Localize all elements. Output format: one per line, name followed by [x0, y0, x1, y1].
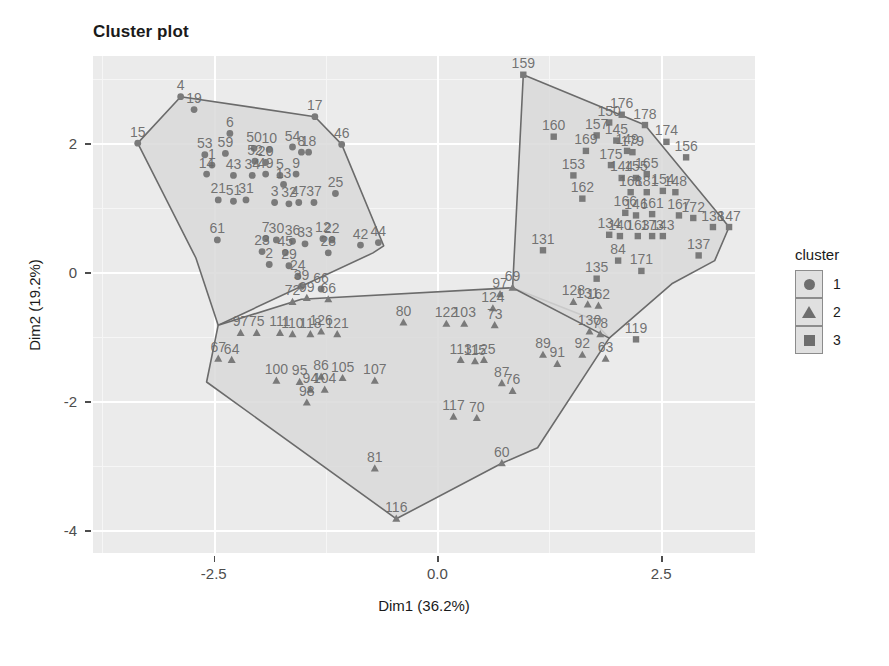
circle-icon — [804, 279, 815, 290]
point-label: 80 — [396, 303, 412, 319]
point-label: 178 — [633, 106, 657, 122]
data-point — [249, 172, 256, 179]
point-label: 43 — [226, 156, 242, 172]
point-label: 81 — [367, 449, 383, 465]
legend-item-1[interactable]: 1 — [795, 270, 887, 298]
data-point — [214, 237, 221, 244]
data-point — [271, 199, 278, 206]
data-point — [203, 171, 210, 178]
data-point — [642, 122, 648, 128]
point-label: 44 — [371, 223, 387, 239]
data-point — [332, 190, 339, 197]
point-label: 174 — [655, 122, 679, 138]
point-label: 165 — [635, 155, 659, 171]
legend: cluster 123 — [795, 246, 887, 354]
data-point — [295, 199, 302, 206]
point-label: 159 — [512, 56, 536, 71]
point-label: 124 — [481, 289, 505, 305]
point-label: 104 — [313, 370, 337, 386]
y-axis-label: Dim2 (19.2%) — [26, 259, 43, 351]
point-label: 169 — [574, 131, 598, 147]
y-tick-mark — [85, 143, 91, 145]
point-label: 161 — [640, 195, 664, 211]
point-label: 121 — [326, 315, 350, 331]
point-label: 15 — [130, 124, 146, 140]
y-tick-mark — [85, 530, 91, 532]
point-label: 20 — [258, 143, 274, 159]
y-tick-label: 2 — [69, 135, 77, 152]
data-point — [579, 195, 585, 201]
data-point — [357, 242, 364, 249]
point-label: 9 — [292, 155, 300, 171]
data-point — [683, 154, 689, 160]
x-tick-mark — [661, 556, 663, 562]
point-label: 156 — [674, 138, 698, 154]
square-icon — [804, 335, 815, 346]
point-label: 13 — [276, 165, 292, 181]
point-label: 92 — [575, 335, 591, 351]
point-label: 60 — [494, 444, 510, 460]
legend-item-2[interactable]: 2 — [795, 298, 887, 326]
point-label: 100 — [265, 361, 289, 377]
point-label: 179 — [621, 133, 645, 149]
legend-items: 123 — [795, 270, 887, 354]
point-label: 131 — [531, 231, 555, 247]
point-label: 78 — [592, 315, 608, 331]
data-point — [593, 275, 599, 281]
point-label: 18 — [301, 133, 317, 149]
point-label: 76 — [505, 371, 521, 387]
data-point — [617, 233, 623, 239]
y-tick-label: -2 — [64, 393, 77, 410]
data-point — [551, 133, 557, 139]
y-tick-label: 0 — [69, 264, 77, 281]
legend-item-3[interactable]: 3 — [795, 326, 887, 354]
point-label: 99 — [299, 279, 315, 295]
point-label: 28 — [320, 233, 336, 249]
data-point — [633, 336, 639, 342]
data-point — [695, 252, 701, 258]
data-point — [663, 139, 669, 145]
data-point — [615, 257, 621, 263]
point-label: 6 — [226, 114, 234, 130]
data-point — [293, 171, 300, 178]
point-label: 84 — [610, 241, 626, 257]
data-point — [280, 181, 287, 188]
point-label: 25 — [328, 174, 344, 190]
point-label: 171 — [630, 251, 654, 267]
data-point — [177, 93, 184, 100]
cluster-plot-figure: Cluster plot 154191764653595054108181521… — [0, 0, 889, 666]
point-label: 75 — [249, 313, 265, 329]
page-title: Cluster plot — [93, 22, 189, 42]
data-point — [243, 197, 250, 204]
point-label: 103 — [453, 304, 477, 320]
point-label: 66 — [320, 280, 336, 296]
data-point — [375, 239, 382, 246]
point-label: 4 — [177, 77, 185, 93]
point-label: 61 — [210, 220, 226, 236]
data-point — [230, 198, 237, 205]
data-point — [325, 249, 332, 256]
point-label: 115 — [464, 342, 487, 358]
data-point — [602, 355, 610, 362]
data-point — [289, 144, 296, 151]
point-label: 19 — [186, 90, 202, 106]
data-point — [520, 72, 526, 78]
point-label: 73 — [487, 306, 503, 322]
point-label: 21 — [210, 180, 226, 196]
y-tick-mark — [85, 401, 91, 403]
point-label: 64 — [224, 341, 240, 357]
legend-key-3 — [795, 326, 823, 354]
x-tick-label: 0.0 — [427, 565, 448, 582]
data-point — [215, 197, 222, 204]
point-label: 162 — [571, 179, 595, 195]
plot-marks: 1541917646535950541081815214433449592021… — [93, 56, 755, 553]
data-point — [262, 159, 269, 166]
point-label: 31 — [238, 180, 254, 196]
x-tick-label: -2.5 — [201, 565, 227, 582]
point-label: 162 — [587, 286, 611, 302]
point-label: 153 — [562, 156, 586, 172]
point-label: 97 — [233, 313, 249, 329]
data-point — [583, 148, 589, 154]
triangle-icon — [802, 306, 816, 318]
point-label: 59 — [218, 134, 234, 150]
